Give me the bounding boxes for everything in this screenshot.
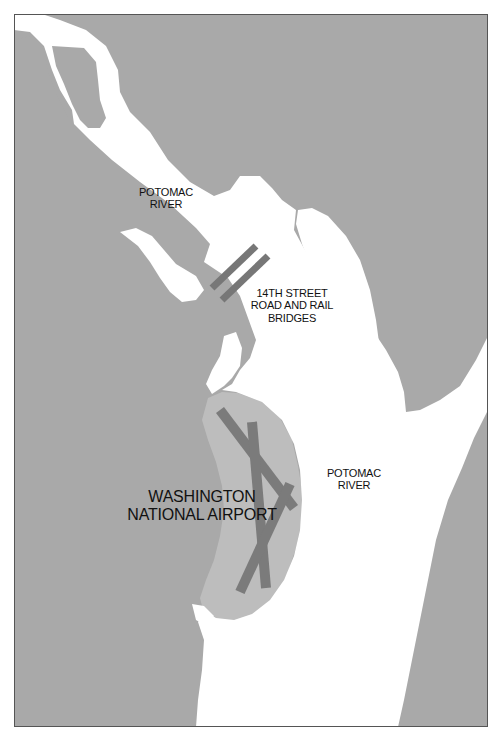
label-line: WASHINGTON bbox=[112, 488, 292, 506]
label-line: POTOMAC bbox=[316, 467, 392, 479]
label-line: NATIONAL AIRPORT bbox=[112, 506, 292, 524]
label-line: RIVER bbox=[316, 479, 392, 491]
label-line: ROAD AND RAIL bbox=[240, 299, 344, 311]
label-line: RIVER bbox=[128, 198, 204, 210]
label-washington-national-airport: WASHINGTON NATIONAL AIRPORT bbox=[112, 488, 292, 524]
label-potomac-river-upper: POTOMAC RIVER bbox=[128, 186, 204, 211]
label-line: 14TH STREET bbox=[240, 287, 344, 299]
label-14th-street-bridges: 14TH STREET ROAD AND RAIL BRIDGES bbox=[240, 287, 344, 324]
label-potomac-river-lower: POTOMAC RIVER bbox=[316, 467, 392, 492]
map-canvas bbox=[0, 0, 498, 738]
label-line: BRIDGES bbox=[240, 312, 344, 324]
label-line: POTOMAC bbox=[128, 186, 204, 198]
